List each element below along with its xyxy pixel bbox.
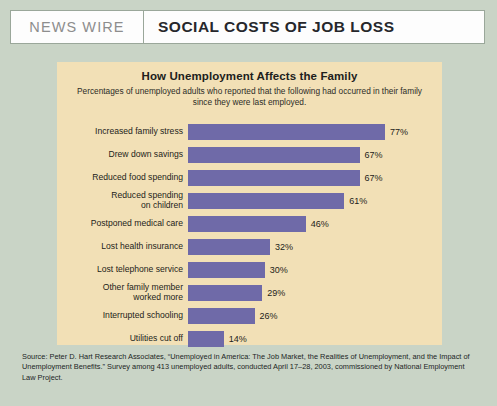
chart-title: How Unemployment Affects the Family <box>57 70 442 82</box>
bar-track: 32% <box>188 235 442 258</box>
chart-panel: How Unemployment Affects the Family Perc… <box>57 62 442 345</box>
bar-row-label: Reduced food spending <box>57 173 188 183</box>
bar-row: Lost health insurance32% <box>57 235 442 258</box>
bar <box>188 285 262 301</box>
bar <box>188 308 255 324</box>
bar-value-label: 30% <box>270 265 288 275</box>
page-title: SOCIAL COSTS OF JOB LOSS <box>158 18 395 36</box>
bar-value-label: 29% <box>267 288 285 298</box>
bar-track: 46% <box>188 212 442 235</box>
news-wire-kicker: NEWS WIRE <box>29 19 124 35</box>
bar <box>188 193 344 209</box>
bar-value-label: 77% <box>390 127 408 137</box>
bar-track: 14% <box>188 327 442 350</box>
bar-row-label: Increased family stress <box>57 127 188 137</box>
bar-track: 77% <box>188 120 442 143</box>
source-note: Source: Peter D. Hart Research Associate… <box>22 352 480 383</box>
bar-track: 67% <box>188 166 442 189</box>
bar <box>188 262 265 278</box>
bar-row: Increased family stress77% <box>57 120 442 143</box>
chart-subtitle: Percentages of unemployed adults who rep… <box>57 86 442 108</box>
bar-value-label: 67% <box>365 173 383 183</box>
bar-track: 26% <box>188 304 442 327</box>
bar-row: Other family member worked more29% <box>57 281 442 304</box>
bar-row-label: Reduced spending on children <box>57 191 188 210</box>
bar-rows: Increased family stress77%Drew down savi… <box>57 120 442 350</box>
bar <box>188 239 270 255</box>
bar-row: Utilities cut off14% <box>57 327 442 350</box>
bar-row: Reduced food spending67% <box>57 166 442 189</box>
bar-row: Reduced spending on children61% <box>57 189 442 212</box>
bar-value-label: 46% <box>311 219 329 229</box>
news-wire-banner: NEWS WIRE SOCIAL COSTS OF JOB LOSS <box>10 10 485 44</box>
bar-value-label: 32% <box>275 242 293 252</box>
kicker-cell: NEWS WIRE <box>11 11 144 43</box>
bar-value-label: 61% <box>349 196 367 206</box>
bar <box>188 124 385 140</box>
bar <box>188 147 360 163</box>
bar-track: 61% <box>188 189 442 212</box>
bar-row-label: Lost telephone service <box>57 265 188 275</box>
bar-row-label: Postponed medical care <box>57 219 188 229</box>
bar-row: Lost telephone service30% <box>57 258 442 281</box>
bar-row-label: Interrupted schooling <box>57 311 188 321</box>
bar-value-label: 14% <box>229 334 247 344</box>
bar <box>188 216 306 232</box>
bar-row-label: Utilities cut off <box>57 334 188 344</box>
bar <box>188 331 224 347</box>
bar <box>188 170 360 186</box>
bar-track: 29% <box>188 281 442 304</box>
bar-row: Drew down savings67% <box>57 143 442 166</box>
bar-row-label: Drew down savings <box>57 150 188 160</box>
bar-row-label: Other family member worked more <box>57 283 188 302</box>
bar-track: 30% <box>188 258 442 281</box>
bar-row: Postponed medical care46% <box>57 212 442 235</box>
headline-cell: SOCIAL COSTS OF JOB LOSS <box>144 11 484 43</box>
bar-value-label: 26% <box>260 311 278 321</box>
bar-track: 67% <box>188 143 442 166</box>
bar-row: Interrupted schooling26% <box>57 304 442 327</box>
bar-row-label: Lost health insurance <box>57 242 188 252</box>
bar-value-label: 67% <box>365 150 383 160</box>
